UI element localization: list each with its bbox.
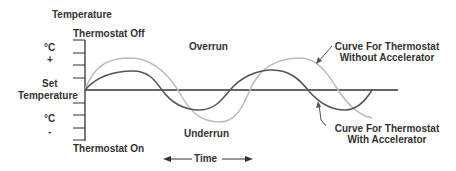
curve-with-line2: With Accelerator (332, 134, 442, 145)
overrun-label: Overrun (189, 41, 228, 52)
time-label: Time (194, 153, 217, 164)
curve-without-accelerator-label: Curve For Thermostat Without Accelerator (332, 41, 442, 63)
thermostat-diagram (0, 0, 456, 171)
thermostat-on-label: Thermostat On (73, 143, 144, 154)
temperature-label: Temperature (18, 90, 78, 101)
arrow-right-icon (245, 156, 253, 162)
curve-without-line1: Curve For Thermostat (332, 41, 442, 52)
upper-unit-label: °C (44, 42, 55, 53)
callout-with-line (319, 104, 326, 126)
curve-with-accelerator-label: Curve For Thermostat With Accelerator (332, 123, 442, 145)
curve-with-line1: Curve For Thermostat (332, 123, 442, 134)
upper-sign-label: + (47, 54, 53, 65)
set-label: Set (42, 78, 58, 89)
arrow-left-icon (163, 156, 171, 162)
lower-unit-label: °C (44, 113, 55, 124)
underrun-label: Underrun (184, 128, 229, 139)
y-axis-title: Temperature (52, 9, 112, 20)
curve-without-line2: Without Accelerator (332, 52, 442, 63)
lower-sign-label: - (48, 126, 51, 137)
thermostat-off-label: Thermostat Off (73, 28, 145, 39)
